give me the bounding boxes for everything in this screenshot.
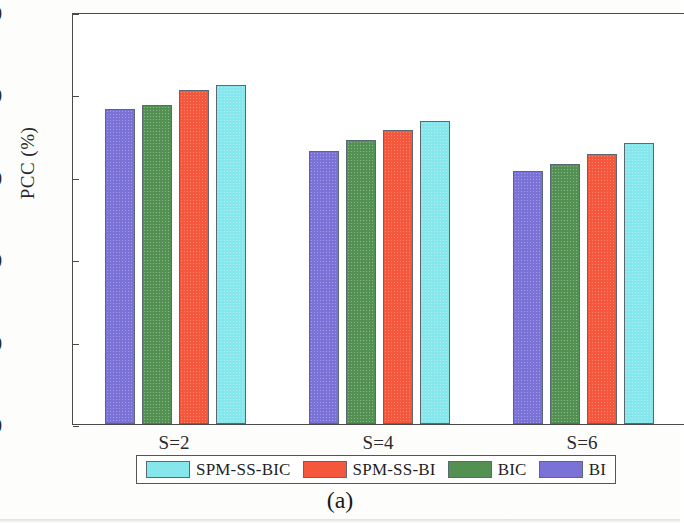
- bar-spm-ss-bi-s-6: [587, 154, 617, 424]
- y-tick-mark: [73, 179, 79, 180]
- legend-swatch: [448, 461, 492, 478]
- y-tick-mark: [73, 344, 79, 345]
- y-tick-mark: [73, 261, 79, 262]
- legend-label: SPM-SS-BI: [353, 460, 436, 480]
- y-tick-label: 60: [0, 168, 2, 190]
- legend-entry: SPM-SS-BI: [303, 460, 436, 480]
- y-tick-label: 40: [0, 250, 2, 272]
- bar-spm-ss-bic-s-4: [420, 121, 450, 424]
- y-tick-label: 20: [0, 333, 2, 355]
- y-tick-mark: [73, 426, 79, 427]
- legend-label: BIC: [498, 460, 527, 480]
- bar-bi-s-2: [105, 109, 135, 424]
- bar-bi-s-6: [513, 171, 543, 424]
- y-tick-label: 100: [0, 3, 2, 25]
- bar-spm-ss-bi-s-2: [179, 90, 209, 424]
- scan-edge-artifact: [0, 519, 680, 523]
- y-tick-mark: [73, 14, 79, 15]
- bar-bi-s-4: [309, 151, 339, 424]
- y-axis-title: PCC (%): [17, 83, 39, 243]
- bar-spm-ss-bi-s-4: [383, 130, 413, 424]
- bar-bic-s-4: [346, 140, 376, 424]
- figure-caption: (a): [0, 487, 680, 514]
- chart-legend: SPM-SS-BICSPM-SS-BIBICBI: [136, 455, 616, 484]
- x-tick-label: S=2: [159, 432, 190, 454]
- legend-label: SPM-SS-BIC: [196, 460, 291, 480]
- x-tick-label: S=4: [363, 432, 394, 454]
- bar-bic-s-6: [550, 164, 580, 424]
- y-tick-label: 80: [0, 85, 2, 107]
- legend-label: BI: [589, 460, 606, 480]
- bar-bic-s-2: [142, 105, 172, 424]
- legend-swatch: [539, 461, 583, 478]
- plot-area: 020406080100: [72, 13, 684, 425]
- legend-entry: BIC: [448, 460, 527, 480]
- legend-entry: SPM-SS-BIC: [146, 460, 291, 480]
- legend-swatch: [303, 461, 347, 478]
- legend-entry: BI: [539, 460, 606, 480]
- bar-spm-ss-bic-s-2: [216, 85, 246, 424]
- y-tick-label: 0: [0, 415, 2, 437]
- legend-swatch: [146, 461, 190, 478]
- x-tick-label: S=6: [567, 432, 598, 454]
- bar-spm-ss-bic-s-6: [624, 143, 654, 424]
- y-tick-mark: [73, 96, 79, 97]
